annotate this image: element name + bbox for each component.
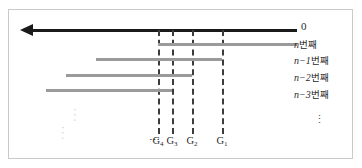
figure-frame: 0 ⋰ ⋰ ⋯ G4 G3 G2 G1 n번째 n−1 bbox=[8, 9, 353, 159]
row-label-n-minus-3-variable: n−3 bbox=[294, 89, 311, 100]
interval-segment-row-n-minus-3 bbox=[46, 89, 172, 92]
guide-line-g1 bbox=[222, 30, 224, 134]
guide-label-g3: G3 bbox=[166, 136, 177, 147]
guide-line-g3 bbox=[172, 30, 174, 134]
row-label-vertical-ellipsis: ⋮ bbox=[314, 114, 325, 125]
axis-origin-label: 0 bbox=[301, 21, 307, 32]
row-label-n-minus-1-variable: n−1 bbox=[294, 55, 311, 66]
guide-label-g2-base: G bbox=[186, 135, 194, 146]
row-label-n-minus-2-suffix: 번째 bbox=[311, 72, 329, 83]
interval-segment-row-n-minus-1 bbox=[96, 58, 222, 61]
guide-line-g4 bbox=[158, 30, 160, 134]
guide-label-g4-subscript: 4 bbox=[160, 140, 164, 148]
figure-canvas: 0 ⋰ ⋰ ⋯ G4 G3 G2 G1 n번째 n−1 bbox=[9, 10, 354, 160]
row-label-n-minus-2-variable: n−2 bbox=[294, 72, 311, 83]
interval-segment-row-n bbox=[158, 43, 297, 46]
guide-line-g2 bbox=[192, 30, 194, 134]
row-label-n-minus-2: n−2번째 bbox=[294, 73, 329, 83]
row-label-n-minus-1-suffix: 번째 bbox=[311, 55, 329, 66]
axis-arrowhead-icon bbox=[20, 24, 33, 36]
row-label-n-minus-3-suffix: 번째 bbox=[311, 89, 329, 100]
row-label-n-minus-3: n−3번째 bbox=[294, 90, 329, 100]
guide-label-g4: G4 bbox=[152, 136, 163, 147]
guide-label-g3-base: G bbox=[166, 135, 174, 146]
interval-segment-row-n-minus-2 bbox=[66, 74, 192, 77]
guide-label-g2: G2 bbox=[186, 136, 197, 147]
guide-label-g4-base: G bbox=[152, 135, 160, 146]
row-label-n-minus-1: n−1번째 bbox=[294, 56, 329, 66]
guide-label-g1: G1 bbox=[216, 136, 227, 147]
diagonal-ellipsis-upper-icon: ⋰ bbox=[67, 106, 83, 122]
diagonal-ellipsis-lower-icon: ⋰ bbox=[55, 124, 71, 140]
row-label-n-suffix: 번째 bbox=[299, 39, 317, 50]
guide-label-g3-subscript: 3 bbox=[174, 140, 178, 148]
row-label-n: n번째 bbox=[294, 40, 317, 50]
guide-label-g2-subscript: 2 bbox=[194, 140, 198, 148]
guide-label-g1-base: G bbox=[216, 135, 224, 146]
time-axis-line bbox=[29, 29, 297, 32]
guide-label-g1-subscript: 1 bbox=[224, 140, 228, 148]
